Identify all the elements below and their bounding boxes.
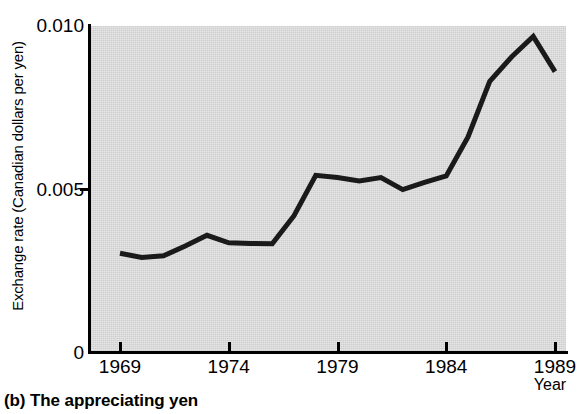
x-tick-mark-1984 [445,342,448,352]
x-tick-label-1984: 1984 [411,356,481,377]
x-tick-mark-1969 [119,342,122,352]
figure-appreciating-yen: 0.010 0.005 0 Exchange rate (Canadian do… [0,0,578,414]
y-axis-title: Exchange rate (Canadian dollars per yen) [2,0,32,356]
y-tick-label-0: 0 [36,343,84,362]
y-tick-label-0010: 0.010 [36,16,84,35]
x-axis-line [88,351,568,354]
x-tick-mark-1974 [228,342,231,352]
x-tick-label-1979: 1979 [303,356,373,377]
figure-caption: (b) The appreciating yen [4,391,198,411]
x-tick-label-1989: 1989 [520,356,578,377]
x-tick-label-1974: 1974 [194,356,264,377]
x-axis-title: Year [522,376,578,394]
x-tick-label-1969: 1969 [85,356,155,377]
plot-area [90,26,566,352]
x-tick-mark-1989 [554,342,557,352]
x-tick-mark-1979 [337,342,340,352]
y-tick-label-0005: 0.005 [36,180,84,199]
